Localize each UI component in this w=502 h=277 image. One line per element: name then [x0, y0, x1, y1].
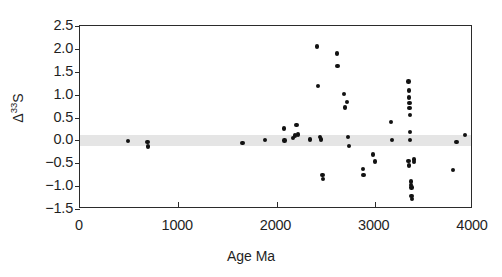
- x-tick-label: 0: [44, 218, 114, 233]
- data-point: [321, 177, 325, 181]
- x-tick-mark: [375, 202, 376, 207]
- data-point: [335, 51, 339, 55]
- data-point: [282, 126, 286, 130]
- data-point: [406, 79, 410, 83]
- data-point: [282, 138, 286, 142]
- y-tick-mark: [75, 49, 80, 50]
- y-tick-label: −1.5: [27, 201, 73, 216]
- data-point: [454, 140, 458, 144]
- data-point: [408, 113, 412, 117]
- data-point: [296, 132, 300, 136]
- x-tick-label: 4000: [437, 218, 502, 233]
- data-point: [345, 100, 349, 104]
- plot-area: [79, 25, 472, 208]
- x-tick-mark: [178, 202, 179, 207]
- y-axis-title: Δ33S: [10, 68, 26, 148]
- data-point: [126, 139, 130, 143]
- data-point: [407, 95, 411, 99]
- y-tick-label: 2.5: [27, 18, 73, 33]
- data-point: [361, 173, 365, 177]
- y-tick-label: 0.0: [27, 132, 73, 147]
- data-point: [316, 84, 320, 88]
- x-tick-label: 1000: [142, 218, 212, 233]
- data-point: [346, 135, 350, 139]
- data-point: [463, 133, 467, 137]
- y-tick-mark: [75, 140, 80, 141]
- y-tick-label: −0.5: [27, 155, 73, 170]
- y-tick-label: −1.0: [27, 178, 73, 193]
- data-point: [347, 144, 351, 148]
- x-tick-label: 3000: [339, 218, 409, 233]
- data-points-layer: [80, 26, 471, 207]
- x-tick-mark: [277, 202, 278, 207]
- x-tick-label: 2000: [241, 218, 311, 233]
- y-tick-label: 1.5: [27, 64, 73, 79]
- data-point: [407, 106, 411, 110]
- scatter-plot-figure: −1.5−1.0−0.50.00.51.01.52.02.5 010002000…: [0, 0, 502, 277]
- data-point: [407, 88, 411, 92]
- data-point: [335, 64, 339, 68]
- data-point: [408, 130, 412, 134]
- x-axis-title: Age Ma: [0, 248, 502, 264]
- y-tick-label: 2.0: [27, 41, 73, 56]
- data-point: [361, 167, 365, 171]
- y-tick-label: 1.0: [27, 87, 73, 102]
- data-point: [263, 138, 267, 142]
- y-tick-mark: [75, 95, 80, 96]
- data-point: [308, 137, 312, 141]
- data-point: [408, 138, 412, 142]
- data-point: [407, 101, 411, 105]
- data-point: [409, 185, 413, 189]
- y-tick-label: 0.5: [27, 110, 73, 125]
- y-tick-mark: [75, 72, 80, 73]
- data-point: [390, 138, 394, 142]
- data-point: [342, 92, 346, 96]
- y-tick-mark: [75, 26, 80, 27]
- data-point: [451, 168, 455, 172]
- data-point: [315, 44, 319, 48]
- data-point: [319, 137, 323, 141]
- y-tick-mark: [75, 186, 80, 187]
- y-tick-mark: [75, 209, 80, 210]
- data-point: [371, 152, 375, 156]
- data-point: [146, 144, 150, 148]
- data-point: [373, 159, 377, 163]
- data-point: [240, 141, 244, 145]
- y-tick-mark: [75, 118, 80, 119]
- data-point: [294, 123, 298, 127]
- data-point: [343, 105, 347, 109]
- data-point: [407, 163, 411, 167]
- data-point: [410, 197, 414, 201]
- data-point: [412, 160, 416, 164]
- y-tick-mark: [75, 163, 80, 164]
- data-point: [389, 120, 393, 124]
